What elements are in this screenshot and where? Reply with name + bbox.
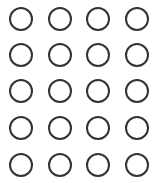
circle-option-icon[interactable] xyxy=(48,7,72,31)
circle-option-icon[interactable] xyxy=(9,153,33,177)
circle-option-icon[interactable] xyxy=(9,43,33,67)
circle-option-icon[interactable] xyxy=(125,153,149,177)
circle-option-icon[interactable] xyxy=(86,153,110,177)
circle-option-icon[interactable] xyxy=(48,79,72,103)
circle-grid xyxy=(0,0,158,183)
circle-option-icon[interactable] xyxy=(9,116,33,140)
circle-option-icon[interactable] xyxy=(48,116,72,140)
circle-option-icon[interactable] xyxy=(125,79,149,103)
circle-option-icon[interactable] xyxy=(9,79,33,103)
circle-option-icon[interactable] xyxy=(86,79,110,103)
circle-option-icon[interactable] xyxy=(86,116,110,140)
circle-option-icon[interactable] xyxy=(125,7,149,31)
circle-option-icon[interactable] xyxy=(48,153,72,177)
circle-option-icon[interactable] xyxy=(9,7,33,31)
circle-option-icon[interactable] xyxy=(125,116,149,140)
circle-option-icon[interactable] xyxy=(125,43,149,67)
circle-option-icon[interactable] xyxy=(86,43,110,67)
circle-option-icon[interactable] xyxy=(48,43,72,67)
circle-option-icon[interactable] xyxy=(86,7,110,31)
